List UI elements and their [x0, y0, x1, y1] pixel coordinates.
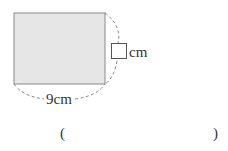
answer-close-paren: ) — [213, 126, 218, 141]
height-brace-top — [105, 13, 119, 43]
height-answer-box[interactable] — [111, 43, 127, 59]
height-unit-label: cm — [129, 45, 147, 60]
width-label: 9cm — [46, 92, 72, 107]
answer-open-paren: ( — [60, 126, 65, 141]
shaded-rectangle — [14, 13, 105, 84]
width-brace-right — [75, 84, 105, 99]
answer-blank[interactable] — [70, 126, 210, 142]
width-brace-left — [14, 84, 44, 99]
height-brace-bottom — [105, 61, 117, 84]
